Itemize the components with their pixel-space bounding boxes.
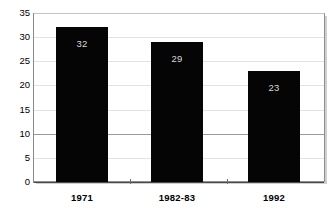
x-axis-tick-2	[227, 179, 228, 184]
gridline-35	[34, 13, 324, 14]
x-axis-tick-1	[130, 179, 131, 184]
y-tick-label-5: 5	[2, 153, 30, 163]
y-tick-label-0: 0	[2, 177, 30, 187]
x-axis-label-1992: 1992	[244, 192, 304, 203]
y-tick-label-20: 20	[2, 80, 30, 90]
y-tick-label-10: 10	[2, 129, 30, 139]
x-axis-label-1971: 1971	[52, 192, 112, 203]
bar-chart: 35 30 25 20 15 10 5 0 32 29 23 1971 1982…	[0, 0, 336, 217]
bar-1992[interactable]: 23	[248, 71, 300, 182]
bar-1971[interactable]: 32	[56, 27, 108, 182]
bar-value-label-1982-83: 29	[151, 53, 203, 64]
bar-value-label-1971: 32	[56, 38, 108, 49]
y-tick-label-35: 35	[2, 8, 30, 18]
y-tick-label-25: 25	[2, 56, 30, 66]
y-tick-label-30: 30	[2, 32, 30, 42]
plot-frame-shadow-right	[325, 16, 327, 184]
bar-1982-83[interactable]: 29	[151, 42, 203, 182]
y-tick-label-15: 15	[2, 105, 30, 115]
x-axis-label-1982-83: 1982-83	[147, 192, 207, 203]
gridline-0-baseline	[34, 182, 324, 183]
y-axis-line	[33, 13, 34, 183]
bar-value-label-1992: 23	[248, 82, 300, 93]
y-axis-tick-labels: 35 30 25 20 15 10 5 0	[0, 0, 30, 217]
